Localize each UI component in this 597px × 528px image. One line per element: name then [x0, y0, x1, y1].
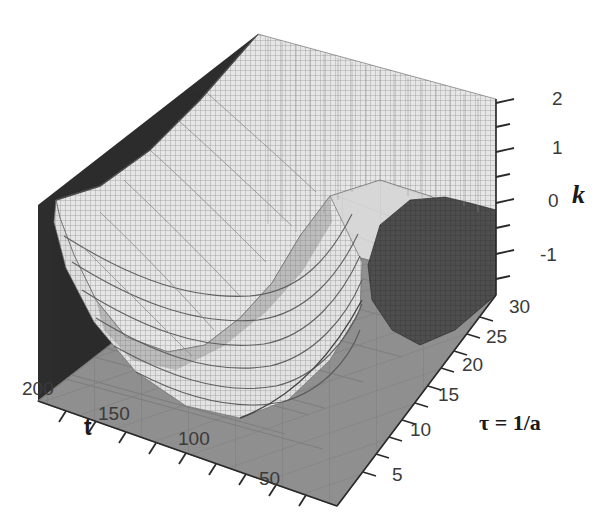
k-tick-label-2: 2 [552, 88, 563, 110]
k-axis-title: k [572, 180, 585, 210]
t-tick-label-100: 100 [178, 428, 210, 450]
k-tick-label-0: 0 [548, 190, 559, 212]
figure-3d-surface-plot: 200 150 100 50 5 10 15 20 25 30 2 1 0 -1… [0, 0, 597, 528]
tau-tick-label-20: 20 [462, 354, 483, 376]
k-axis [496, 99, 514, 295]
k-tick-label-1: 1 [552, 137, 563, 159]
tau-tick-label-10: 10 [410, 419, 431, 441]
t-tick-label-200: 200 [22, 378, 54, 400]
t-tick-label-50: 50 [259, 468, 280, 490]
plot-canvas [0, 0, 597, 528]
tau-axis-title: τ = 1/a [479, 410, 541, 436]
tau-tick-label-5: 5 [392, 464, 403, 486]
t-axis-title: t [84, 414, 92, 441]
tau-tick-label-15: 15 [438, 384, 459, 406]
k-tick-label-minus1: -1 [540, 244, 557, 266]
tau-tick-label-25: 25 [486, 326, 507, 348]
tau-tick-label-30: 30 [509, 296, 530, 318]
t-tick-label-150: 150 [98, 403, 130, 425]
